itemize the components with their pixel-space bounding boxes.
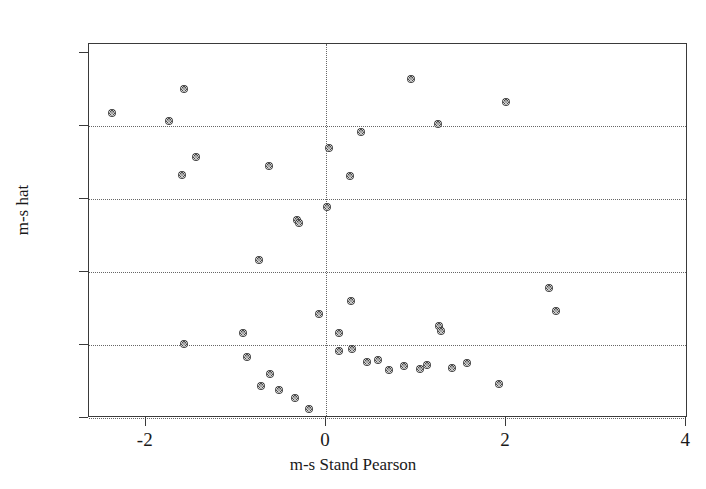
y-axis-tick bbox=[79, 344, 88, 345]
data-point bbox=[385, 366, 393, 374]
data-point bbox=[315, 310, 323, 318]
data-point bbox=[192, 153, 200, 161]
data-point bbox=[502, 98, 510, 106]
data-point bbox=[239, 329, 247, 337]
data-point bbox=[335, 347, 343, 355]
gridline-horizontal bbox=[89, 126, 686, 127]
y-axis-tick bbox=[79, 271, 88, 272]
data-point bbox=[257, 382, 265, 390]
data-point bbox=[266, 370, 274, 378]
x-axis-tick-label: 2 bbox=[475, 430, 535, 449]
data-point bbox=[347, 297, 355, 305]
data-point bbox=[357, 128, 365, 136]
gridline-vertical bbox=[326, 44, 327, 416]
x-axis-tick bbox=[685, 417, 686, 426]
data-point bbox=[374, 356, 382, 364]
data-point bbox=[295, 219, 303, 227]
plot-area bbox=[88, 43, 687, 417]
data-point bbox=[165, 117, 173, 125]
data-point bbox=[255, 256, 263, 264]
data-point bbox=[495, 380, 503, 388]
data-point bbox=[305, 405, 313, 413]
gridline-horizontal bbox=[89, 272, 686, 273]
data-point bbox=[407, 75, 415, 83]
y-axis-tick bbox=[79, 52, 88, 53]
data-point bbox=[545, 284, 553, 292]
data-point bbox=[265, 162, 273, 170]
x-axis-tick bbox=[325, 417, 326, 426]
data-point bbox=[243, 353, 251, 361]
gridline-horizontal bbox=[89, 345, 686, 346]
data-point bbox=[346, 172, 354, 180]
data-point bbox=[552, 307, 560, 315]
x-axis-tick bbox=[505, 417, 506, 426]
x-axis-label: m-s Stand Pearson bbox=[0, 455, 706, 475]
y-axis-tick bbox=[79, 417, 88, 418]
y-axis-tick bbox=[79, 198, 88, 199]
gridline-horizontal bbox=[89, 418, 686, 419]
data-point bbox=[335, 329, 343, 337]
data-point bbox=[291, 394, 299, 402]
data-point bbox=[348, 345, 356, 353]
data-point bbox=[437, 327, 445, 335]
data-point bbox=[178, 171, 186, 179]
data-point bbox=[108, 109, 116, 117]
data-point bbox=[463, 359, 471, 367]
x-axis-tick-label: -2 bbox=[115, 430, 175, 449]
data-point bbox=[325, 144, 333, 152]
data-point bbox=[275, 386, 283, 394]
x-axis-tick-label: 4 bbox=[655, 430, 706, 449]
data-point bbox=[323, 203, 331, 211]
data-point bbox=[180, 340, 188, 348]
data-point bbox=[423, 361, 431, 369]
x-axis-tick bbox=[145, 417, 146, 426]
data-point bbox=[363, 358, 371, 366]
x-axis-tick-label: 0 bbox=[295, 430, 355, 449]
data-point bbox=[448, 364, 456, 372]
gridline-horizontal bbox=[89, 199, 686, 200]
data-point bbox=[400, 362, 408, 370]
data-point bbox=[180, 85, 188, 93]
y-axis-label: m-s hat bbox=[13, 150, 33, 270]
scatter-plot-figure: m-s hat m-s Stand Pearson 0.1.2.3.4.5-20… bbox=[0, 0, 706, 489]
y-axis-tick bbox=[79, 125, 88, 126]
